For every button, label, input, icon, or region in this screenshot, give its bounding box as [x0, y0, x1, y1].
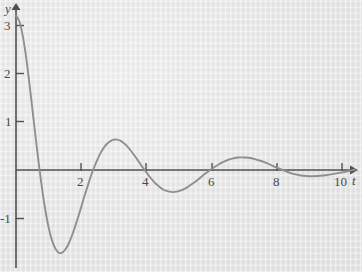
y-tick-label-minus-1: -1: [0, 212, 11, 225]
x-axis-label: t: [352, 174, 356, 187]
x-tick-label-6: 6: [208, 175, 215, 188]
x-tick-label-8: 8: [273, 175, 280, 188]
damped-oscillation-curve: [16, 16, 355, 253]
x-tick-label-2: 2: [77, 175, 84, 188]
x-tick-label-4: 4: [142, 175, 149, 188]
y-tick-label-3: 3: [4, 19, 11, 32]
figure-canvas: y t 3 2 1 -1 2 4 6 8 10: [0, 0, 362, 272]
plot-svg: [0, 0, 362, 272]
y-axis-arrowhead: [12, 3, 21, 10]
y-tick-label-2: 2: [4, 67, 11, 80]
y-axis-label: y: [5, 2, 11, 15]
y-tick-label-1: 1: [5, 115, 12, 128]
x-tick-label-10: 10: [334, 175, 347, 188]
